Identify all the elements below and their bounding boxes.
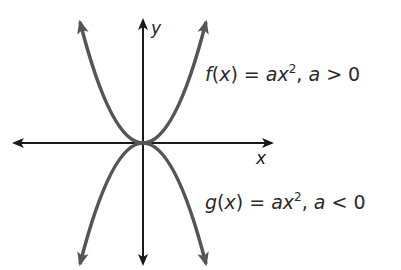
- f-equation-label: f(x) = ax2, a > 0: [205, 62, 360, 85]
- g-func-name: g: [205, 191, 217, 213]
- g-eq-close: ) =: [236, 191, 265, 213]
- f-coef: a: [266, 63, 278, 85]
- coordinate-plane: [0, 0, 401, 270]
- f-var: x: [219, 63, 230, 85]
- g-coef: a: [271, 191, 283, 213]
- f-exponent: 2: [289, 62, 297, 76]
- g-exponent: 2: [294, 190, 302, 204]
- g-condition: < 0: [325, 191, 365, 213]
- f-cond-a: a: [308, 63, 320, 85]
- f-condition: > 0: [320, 63, 360, 85]
- f-func-name: f: [205, 63, 212, 85]
- f-xsq: x: [277, 63, 288, 85]
- y-axis-label: y: [151, 18, 161, 38]
- f-eq-close: ) =: [230, 63, 259, 85]
- g-equation-label: g(x) = ax2, a < 0: [205, 190, 366, 213]
- g-xsq: x: [283, 191, 294, 213]
- g-var: x: [224, 191, 235, 213]
- g-cond-a: a: [314, 191, 326, 213]
- x-axis-label: x: [256, 148, 266, 168]
